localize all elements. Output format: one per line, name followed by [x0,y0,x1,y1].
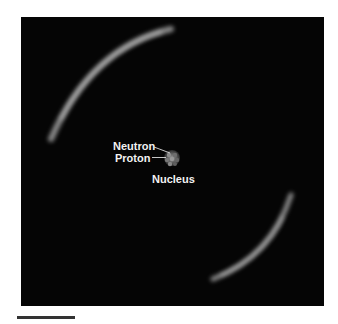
neutron-label: Neutron [113,140,155,152]
scale-bar [17,316,75,319]
nucleus-label: Nucleus [152,173,195,185]
electron-cloud-arc-upper [51,29,171,139]
atom-image-panel: Neutron Proton Nucleus [21,17,324,306]
electron-cloud-arc-lower [213,195,291,279]
atom-illustration [21,17,324,306]
nucleus-icon [164,150,180,166]
proton-label: Proton [115,152,150,164]
neutron-leader-line [154,147,170,153]
